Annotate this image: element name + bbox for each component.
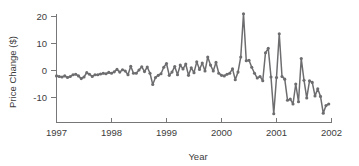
data-point [294,82,297,85]
data-point [110,72,113,75]
data-point [66,76,69,79]
x-tick-label: 2001 [266,127,287,138]
x-tick-label: 1998 [101,127,122,138]
data-point [55,74,58,77]
data-point [322,112,325,115]
data-point [203,69,206,72]
data-point [135,72,138,75]
data-point [316,87,319,90]
y-tick-label: -10 [33,92,47,103]
data-point [88,73,91,76]
data-point [85,71,88,74]
data-point [69,75,72,78]
x-axis-title: Year [188,151,207,162]
data-point [102,72,105,75]
data-point [206,55,209,58]
data-point [99,72,102,75]
data-point [165,62,168,65]
data-point [173,65,176,68]
data-point [209,64,212,67]
data-point [267,47,270,50]
data-point [91,75,94,78]
data-point [58,75,61,78]
data-point [192,71,195,74]
data-point [104,72,107,75]
chart-figure: Price Change ($) -1001020 19971998199920… [0,0,359,166]
data-point [80,77,83,80]
data-point [195,60,198,63]
data-series-group [55,12,330,115]
x-axis: 199719981999200020012002 [46,118,342,139]
x-tick-label: 1997 [46,127,67,138]
data-point [297,100,300,103]
data-point [242,12,245,15]
data-point [300,57,303,60]
data-point [140,65,143,68]
data-point [176,73,179,76]
data-point [283,78,286,81]
data-point [115,68,118,71]
data-point [82,75,85,78]
x-tick-label: 2002 [321,127,342,138]
data-point [291,102,294,105]
data-point [225,73,228,76]
data-point [261,79,264,82]
data-point [184,62,187,65]
data-point [234,78,237,81]
data-point [313,94,316,97]
y-tick-label: 20 [36,11,47,22]
data-point [231,67,234,70]
data-point [137,68,140,71]
data-point [289,98,292,101]
data-point [129,65,132,68]
data-point [124,69,127,72]
data-point [275,76,278,79]
data-point [63,74,66,77]
data-point [308,79,311,82]
data-point [212,69,215,72]
data-point [311,81,314,84]
data-point [264,51,267,54]
data-point [239,55,242,58]
data-point [181,67,184,70]
data-point [253,72,256,75]
data-point [223,74,226,77]
y-axis-title: Price Change ($) [7,36,18,108]
data-point [146,65,149,68]
data-point [60,75,63,78]
data-point [113,70,116,73]
data-point [151,83,154,86]
data-point [126,73,129,76]
data-point [74,73,77,76]
x-tick-label: 2000 [211,127,232,138]
data-point [71,73,74,76]
data-point [327,102,330,105]
data-point [247,59,250,62]
data-point [272,112,275,115]
data-point [269,75,272,78]
data-point [132,72,135,75]
data-point [179,64,182,67]
y-tick-label: 10 [36,38,47,49]
data-point [107,71,110,74]
data-point [143,70,146,73]
data-point [157,74,160,77]
data-point [93,73,96,76]
y-axis: -1001020 [33,11,56,123]
x-tick-label: 1999 [156,127,177,138]
data-point [286,99,289,102]
data-point [214,61,217,64]
data-point [217,72,220,75]
data-point [228,72,231,75]
data-point [170,71,173,74]
data-point [168,74,171,77]
data-point [198,68,201,71]
data-point [256,77,259,80]
data-point [187,74,190,77]
data-point [319,95,322,98]
data-point [118,71,121,74]
data-point [324,104,327,107]
data-point [220,74,223,77]
price-change-line-chart: Price Change ($) -1001020 19971998199920… [0,0,359,166]
data-point [302,79,305,82]
